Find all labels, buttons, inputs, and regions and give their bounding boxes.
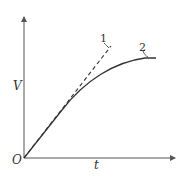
origin-label: O (12, 153, 22, 167)
curve-1-label: 1 (100, 32, 107, 45)
y-axis-label: V (13, 79, 23, 93)
v-t-diagram: 1 2 V t O (0, 0, 183, 177)
curve-2-label: 2 (139, 41, 146, 54)
x-axis-label: t (94, 158, 99, 172)
